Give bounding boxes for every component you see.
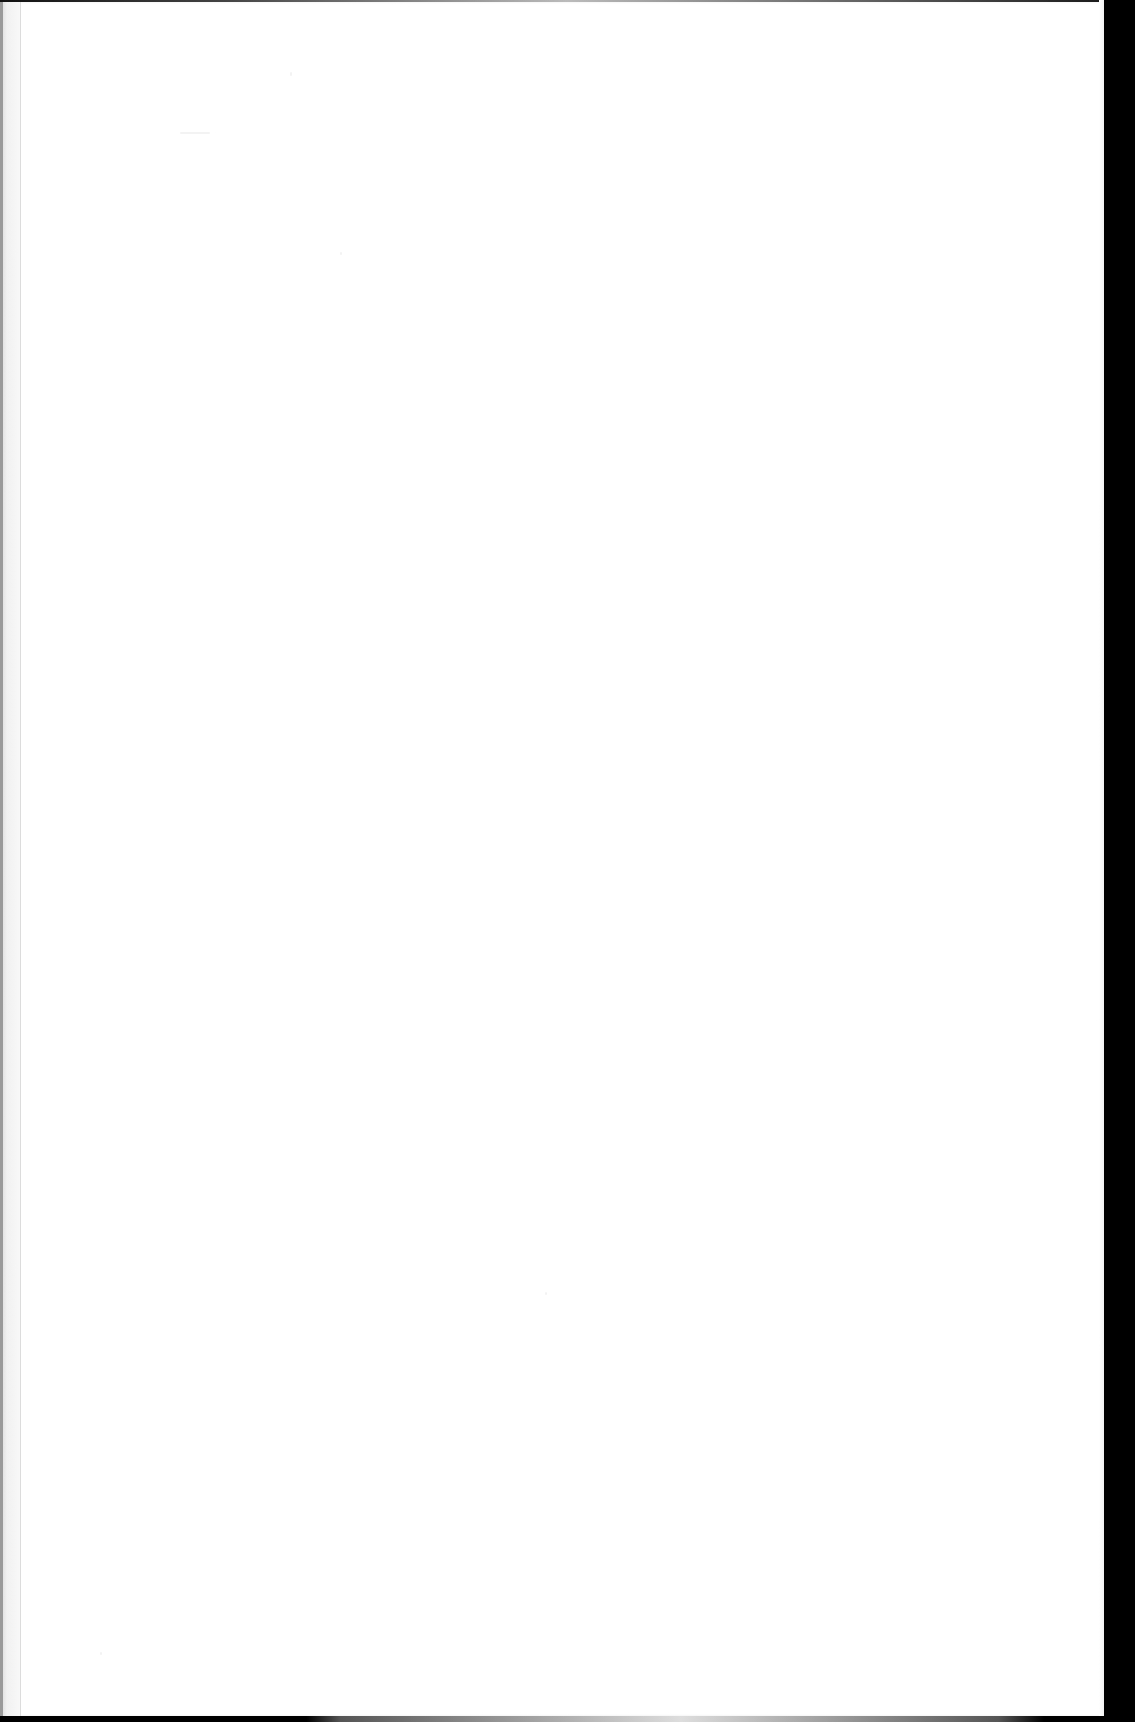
- bleed-through-mark: [100, 1652, 102, 1655]
- gutter-shadow: [0, 2, 3, 1716]
- bleed-through-mark: [290, 72, 292, 76]
- bleed-through-mark: [340, 252, 342, 255]
- blank-page: [0, 2, 1104, 1716]
- bleed-through-mark: [180, 132, 210, 134]
- page-bottom-edge: [0, 1716, 1135, 1722]
- bleed-through-mark: [545, 1292, 547, 1295]
- scanner-right-margin: [1104, 0, 1135, 1722]
- scanner-background: [0, 0, 1135, 1722]
- binding-gutter: [0, 2, 21, 1716]
